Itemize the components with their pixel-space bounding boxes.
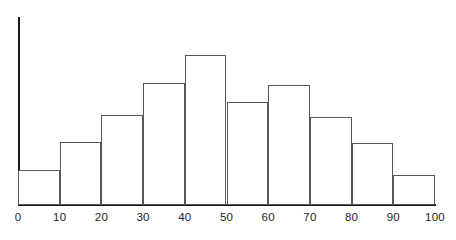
histogram-bar <box>143 83 185 205</box>
histogram-bar <box>310 117 352 205</box>
plot-area: 0102030405060708090100 <box>0 0 456 240</box>
histogram-bar <box>18 170 60 205</box>
x-tick-label: 20 <box>95 211 108 224</box>
x-tick-label: 80 <box>345 211 358 224</box>
x-tick-label: 90 <box>387 211 400 224</box>
x-tick-label: 70 <box>303 211 316 224</box>
x-tick-label: 60 <box>262 211 275 224</box>
x-tick-label: 100 <box>425 211 445 224</box>
histogram-bar <box>227 102 269 205</box>
histogram-bar <box>268 85 310 205</box>
histogram-chart: 0102030405060708090100 <box>0 0 456 240</box>
x-tick-label: 30 <box>136 211 149 224</box>
histogram-bar <box>60 142 102 205</box>
x-tick-label: 10 <box>53 211 66 224</box>
histogram-bar <box>393 175 435 205</box>
x-tick-label: 50 <box>220 211 233 224</box>
histogram-bar <box>352 143 394 205</box>
histogram-bar <box>185 55 227 205</box>
x-tick-label: 40 <box>178 211 191 224</box>
x-tick-label: 0 <box>15 211 22 224</box>
histogram-bar <box>101 115 143 205</box>
